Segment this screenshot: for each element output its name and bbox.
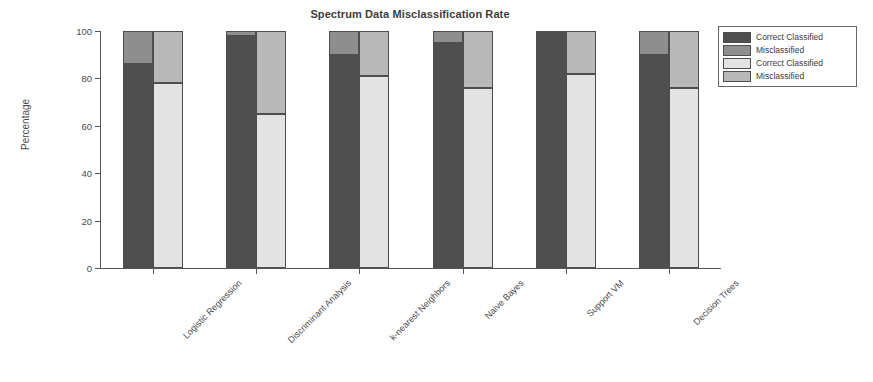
chart-title: Spectrum Data Misclassification Rate xyxy=(100,8,720,20)
y-axis-tick xyxy=(95,31,101,32)
chart-figure: Spectrum Data Misclassification Rate Per… xyxy=(0,0,873,382)
y-axis-tick xyxy=(95,221,101,222)
bar xyxy=(329,31,359,268)
legend-item: Correct Classified xyxy=(723,57,853,69)
bar-stack xyxy=(329,31,359,268)
bar-segment-misclassified xyxy=(359,31,389,76)
bar-stack xyxy=(669,31,699,268)
y-axis-tick xyxy=(95,268,101,269)
bar xyxy=(669,31,699,268)
bar-segment-misclassified xyxy=(329,31,359,55)
bar-segment-misclassified xyxy=(433,31,463,43)
y-axis-title: Percentage xyxy=(20,99,31,150)
bar-segment-correct-classified xyxy=(639,55,669,268)
x-axis-tick xyxy=(669,268,670,274)
bar-segment-correct-classified xyxy=(329,55,359,268)
y-axis-tick-label: 0 xyxy=(52,263,92,274)
bar-segment-correct-classified xyxy=(433,43,463,268)
y-axis-tick-label: 60 xyxy=(52,120,92,131)
bar-segment-correct-classified xyxy=(123,64,153,268)
chart-legend: Correct ClassifiedMisclassifiedCorrect C… xyxy=(718,26,857,87)
bar-stack xyxy=(123,31,153,268)
legend-label: Correct Classified xyxy=(756,33,823,42)
y-axis-tick-label: 80 xyxy=(52,73,92,84)
legend-label: Misclassified xyxy=(756,46,804,55)
bar xyxy=(359,31,389,268)
x-axis-tick xyxy=(463,268,464,274)
bar-segment-misclassified xyxy=(669,31,699,88)
bar xyxy=(256,31,286,268)
bar xyxy=(639,31,669,268)
bar-stack xyxy=(153,31,183,268)
bar-segment-correct-classified xyxy=(256,114,286,268)
bar-segment-misclassified xyxy=(463,31,493,88)
bar-stack xyxy=(566,31,596,268)
legend-label: Misclassified xyxy=(756,72,804,81)
legend-item: Misclassified xyxy=(723,70,853,82)
bar-segment-correct-classified xyxy=(153,83,183,268)
bar-segment-correct-classified xyxy=(536,31,566,268)
bar-segment-correct-classified xyxy=(463,88,493,268)
bar xyxy=(536,31,566,268)
bar xyxy=(566,31,596,268)
bar xyxy=(463,31,493,268)
bar-segment-correct-classified xyxy=(359,76,389,268)
x-axis-tick xyxy=(359,268,360,274)
bar-segment-misclassified xyxy=(226,31,256,36)
bar xyxy=(226,31,256,268)
y-axis-tick xyxy=(95,78,101,79)
y-axis-tick xyxy=(95,126,101,127)
x-axis-tick-label: Discriminant Analysis xyxy=(286,278,353,345)
bar-stack xyxy=(463,31,493,268)
x-axis-tick xyxy=(153,268,154,274)
x-axis-tick-label: Logistic Regression xyxy=(181,278,244,341)
bar-segment-correct-classified xyxy=(669,88,699,268)
x-axis-tick xyxy=(566,268,567,274)
x-axis-tick-label: Support VM xyxy=(585,278,626,319)
x-axis-tick-label: Naive Bayes xyxy=(482,278,525,321)
legend-swatch xyxy=(723,45,751,56)
legend-swatch xyxy=(723,58,751,69)
bar-segment-misclassified xyxy=(256,31,286,114)
x-axis-tick-label: Decision Trees xyxy=(692,278,741,327)
bar-segment-misclassified xyxy=(123,31,153,64)
x-axis-tick-label: k-nearest Neighbors xyxy=(388,278,452,342)
legend-item: Misclassified xyxy=(723,44,853,56)
plot-area xyxy=(100,31,721,269)
bar-stack xyxy=(433,31,463,268)
bar-stack xyxy=(536,31,566,268)
bar-stack xyxy=(359,31,389,268)
legend-swatch xyxy=(723,71,751,82)
bar-segment-misclassified xyxy=(153,31,183,83)
bar xyxy=(123,31,153,268)
bar-segment-misclassified xyxy=(566,31,596,74)
bar-segment-misclassified xyxy=(639,31,669,55)
legend-label: Correct Classified xyxy=(756,59,823,68)
bar xyxy=(153,31,183,268)
y-axis-tick xyxy=(95,173,101,174)
bar-stack xyxy=(256,31,286,268)
bar xyxy=(433,31,463,268)
y-axis-tick-label: 40 xyxy=(52,168,92,179)
legend-swatch xyxy=(723,32,751,43)
y-axis-tick-label: 100 xyxy=(52,26,92,37)
bar-segment-correct-classified xyxy=(566,74,596,268)
bar-stack xyxy=(639,31,669,268)
bar-stack xyxy=(226,31,256,268)
legend-item: Correct Classified xyxy=(723,31,853,43)
bar-segment-correct-classified xyxy=(226,36,256,268)
x-axis-tick xyxy=(256,268,257,274)
y-axis-tick-label: 20 xyxy=(52,215,92,226)
